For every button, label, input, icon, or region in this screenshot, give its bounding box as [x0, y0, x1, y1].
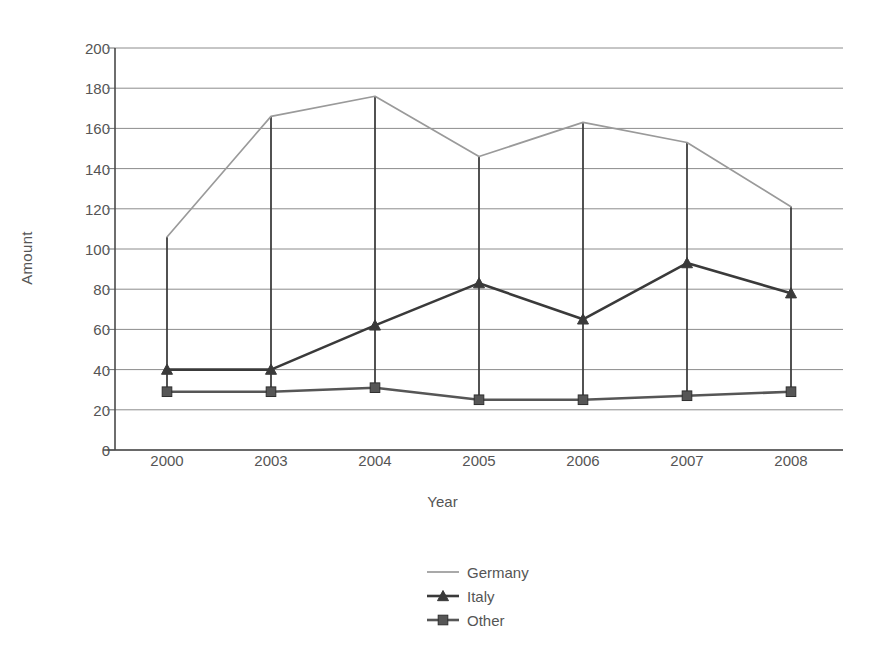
line-chart-figure: Amount 020406080100120140160180200 20002… [0, 0, 885, 669]
data-point-marker-square [266, 387, 276, 397]
legend-swatch-none-icon [425, 565, 461, 579]
data-point-marker-triangle [474, 278, 485, 288]
legend-swatch-square-icon [425, 613, 461, 627]
chart-legend: GermanyItalyOther [425, 560, 685, 632]
legend-swatch-triangle-icon [425, 589, 461, 603]
data-point-marker-square [370, 383, 380, 393]
legend-label: Germany [467, 564, 529, 581]
data-point-marker-square [438, 615, 448, 625]
data-point-marker-square [682, 391, 692, 401]
data-point-marker-square [162, 387, 172, 397]
legend-label: Other [467, 612, 505, 629]
data-point-marker-square [786, 387, 796, 397]
data-point-marker-triangle [682, 258, 693, 268]
legend-label: Italy [467, 588, 495, 605]
legend-item-germany[interactable]: Germany [425, 560, 685, 584]
legend-item-italy[interactable]: Italy [425, 584, 685, 608]
legend-item-other[interactable]: Other [425, 608, 685, 632]
data-point-marker-square [474, 395, 484, 405]
data-point-marker-square [578, 395, 588, 405]
